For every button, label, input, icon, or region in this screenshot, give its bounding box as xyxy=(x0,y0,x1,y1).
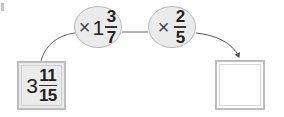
denominator: 5 xyxy=(176,29,185,46)
denominator: 15 xyxy=(39,87,57,104)
whole-number: 1 xyxy=(93,17,105,38)
whole-number: 3 xyxy=(26,75,38,96)
fraction: 2 5 xyxy=(174,8,186,45)
fraction: 3 7 xyxy=(105,8,117,45)
link-op2-to-answer xyxy=(196,33,239,57)
operation-node-2: × 2 5 xyxy=(148,6,196,48)
link-start-to-op1 xyxy=(41,33,75,61)
fraction: 11 15 xyxy=(39,67,57,104)
operation-node-1: × 1 3 7 xyxy=(74,6,122,48)
start-value-box: 3 11 15 xyxy=(17,61,66,110)
numerator: 11 xyxy=(39,67,56,84)
answer-box[interactable] xyxy=(215,60,265,110)
multiply-icon: × xyxy=(158,17,170,37)
numerator: 3 xyxy=(107,8,116,25)
multiply-icon: × xyxy=(79,17,91,37)
numerator: 2 xyxy=(176,8,185,25)
denominator: 7 xyxy=(107,29,116,46)
